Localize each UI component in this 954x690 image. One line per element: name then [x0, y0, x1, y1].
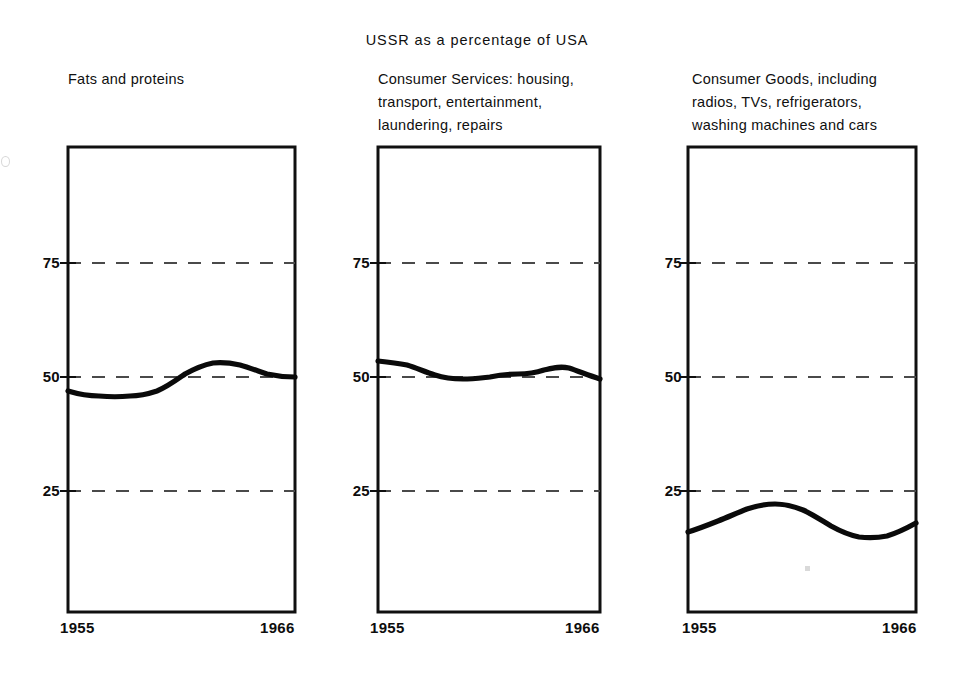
figure-root: USSR as a percentage of USA Fats and pro…	[0, 0, 954, 690]
plot-area-consumer-goods	[620, 0, 954, 690]
plot-frame	[688, 147, 916, 612]
data-curve-consumer-goods	[688, 504, 916, 538]
plot-area-fats-and-proteins	[0, 0, 330, 690]
plot-area-consumer-services	[310, 0, 640, 690]
panel-consumer-goods: Consumer Goods, including radios, TVs, r…	[620, 0, 954, 690]
panel-fats-and-proteins: Fats and proteins 75 50 25 1955 1966	[0, 0, 330, 690]
panel-consumer-services: Consumer Services: housing, transport, e…	[310, 0, 640, 690]
data-curve-fats-and-proteins	[68, 363, 295, 397]
